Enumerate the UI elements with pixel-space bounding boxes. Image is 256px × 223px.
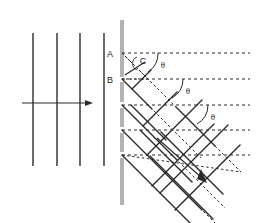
refracted-crest-4 — [160, 125, 228, 193]
construction-line-1 — [122, 53, 176, 107]
refracted-grid-line-5 — [176, 107, 215, 146]
label-point-a: A — [107, 49, 113, 59]
label-angle-3: θ — [211, 112, 215, 122]
diagram-canvas: A B C θ θ θ — [0, 0, 256, 223]
refracted-wavefront-group — [122, 70, 240, 223]
refracted-crest-3 — [147, 100, 202, 155]
angle-arc-3 — [197, 105, 208, 124]
refracted-wavefront-4 — [122, 155, 190, 223]
label-angle-1: θ — [161, 60, 165, 70]
label-point-b: B — [107, 75, 113, 85]
label-angle-2: θ — [186, 86, 190, 96]
incident-wavefront-group — [33, 33, 104, 166]
refracted-crest-2 — [143, 92, 177, 126]
angle-arc-1 — [148, 53, 158, 72]
normal-lines-group — [122, 53, 250, 155]
refracted-direction-arrow — [157, 138, 207, 183]
refracted-grid-line-3 — [150, 156, 213, 219]
wave-refraction-diagram: A B C θ θ θ — [0, 0, 256, 223]
refracted-crest-5 — [152, 124, 214, 186]
construction-boundary-lower — [122, 155, 241, 172]
incident-arrow-head — [85, 100, 93, 106]
refracted-grid-line-4 — [161, 132, 223, 194]
refracted-grid-line-1 — [131, 105, 166, 140]
label-point-c: C — [140, 56, 147, 66]
